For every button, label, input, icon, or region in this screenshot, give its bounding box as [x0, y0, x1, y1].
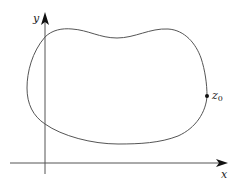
x-axis-label: x — [221, 168, 228, 181]
x-axis — [10, 159, 228, 167]
point-label-subscript: 0 — [218, 94, 223, 103]
diagram-figure: y x z0 — [0, 0, 234, 187]
point-z0 — [205, 94, 209, 98]
closed-curve — [27, 29, 207, 144]
y-axis-label: y — [32, 12, 40, 25]
point-z0-label: z0 — [211, 89, 223, 103]
